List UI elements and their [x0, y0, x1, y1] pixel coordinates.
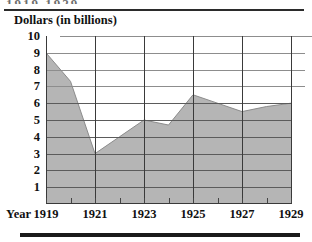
y-axis-tick-5: 5: [14, 114, 40, 127]
x-axis-tick-1927: 1927: [222, 207, 262, 222]
x-axis-tick-1923: 1923: [124, 207, 164, 222]
gridline-y-10: [60, 36, 312, 37]
x-tick-1921: [95, 198, 96, 203]
plot-frame-left: [46, 36, 47, 204]
y-axis-tick-7: 7: [14, 80, 40, 93]
x-axis-tick-1925: 1925: [173, 207, 213, 222]
gridline-y-1: [46, 187, 292, 188]
gridline-y-4: [46, 137, 292, 138]
x-tick-1920: [71, 198, 72, 203]
x-tick-1926: [218, 198, 219, 203]
gridline-y-8: [46, 70, 305, 71]
x-axis-tick-1919: 1919: [26, 207, 66, 222]
y-axis-tick-3: 3: [14, 147, 40, 160]
gridline-y-3: [46, 154, 292, 155]
y-axis-tick-1: 1: [14, 181, 40, 194]
chart-figure: 1919 1929 Dollars (in billions) Year 109…: [0, 0, 312, 242]
plot-frame-right: [291, 36, 292, 204]
gridline-y-5: [46, 120, 292, 121]
cropped-heading: 1919 1929: [6, 0, 79, 4]
plot-area: [46, 36, 292, 204]
y-axis-tick-4: 4: [14, 131, 40, 144]
y-axis-tick-8: 8: [14, 63, 40, 76]
x-tick-1925: [193, 198, 194, 203]
y-axis-tick-9: 9: [14, 47, 40, 60]
x-tick-1929: [291, 198, 292, 203]
chart-axis-title: Dollars (in billions): [14, 13, 117, 28]
x-tick-1919: [46, 198, 47, 203]
gridline-y-7: [46, 86, 305, 87]
x-tick-1927: [242, 198, 243, 203]
top-rule: [4, 9, 304, 11]
plot-frame-bottom: [46, 203, 292, 204]
x-tick-1923: [144, 198, 145, 203]
gridline-x-1925: [193, 36, 194, 204]
gridline-x-1923: [144, 36, 145, 204]
x-axis-tick-1921: 1921: [75, 207, 115, 222]
x-tick-1922: [120, 198, 121, 203]
y-axis-tick-10: 10: [14, 30, 40, 43]
y-axis-tick-2: 2: [14, 164, 40, 177]
x-axis-tick-1929: 1929: [271, 207, 311, 222]
gridline-y-6: [46, 103, 292, 104]
bottom-rule: [20, 233, 300, 237]
gridline-y-9: [46, 53, 305, 54]
x-tick-1924: [169, 198, 170, 203]
gridline-x-1921: [95, 36, 96, 204]
gridline-x-1927: [242, 36, 243, 204]
gridline-y-2: [46, 170, 292, 171]
x-tick-1928: [267, 198, 268, 203]
area-fill: [46, 53, 291, 204]
y-axis-tick-6: 6: [14, 97, 40, 110]
